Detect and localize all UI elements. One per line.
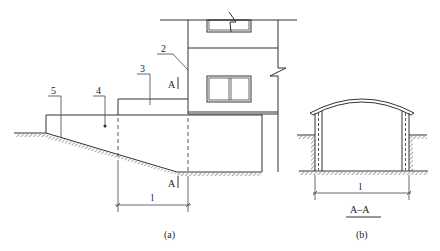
leader-label-4: 4 [96,85,101,96]
leader-label-5: 5 [51,85,56,96]
leader-2: 2 [157,43,188,70]
arch-roof [310,99,414,113]
dimension-l-b: l [313,175,411,200]
figure-a: 2 3 4 5 A A l [14,12,297,241]
leader-label-3: 3 [140,63,145,74]
step [118,99,188,115]
ground-right [177,172,262,176]
svg-text:l: l [359,181,362,192]
building [160,12,297,172]
section-mark-bottom: A [168,176,178,189]
engineering-diagram: 2 3 4 5 A A l [0,0,440,251]
ground-left [14,133,46,137]
wall-right [402,111,409,171]
fill-platform [46,115,262,133]
slope [46,133,180,176]
leader-4: 4 [93,85,105,126]
leader-5: 5 [48,85,61,138]
section-mark-top: A [168,77,178,90]
leader-label-2: 2 [161,43,166,54]
svg-text:l: l [151,192,154,203]
caption-b: (b) [356,229,368,241]
svg-text:A: A [168,178,176,189]
caption-a: (a) [164,229,175,241]
break-mark-top [229,12,236,32]
svg-text:A: A [168,79,176,90]
wall-left [315,111,322,171]
break-mark-right [270,68,286,76]
figure-b: l A–A (b) [297,99,428,241]
section-title: A–A [350,204,370,215]
